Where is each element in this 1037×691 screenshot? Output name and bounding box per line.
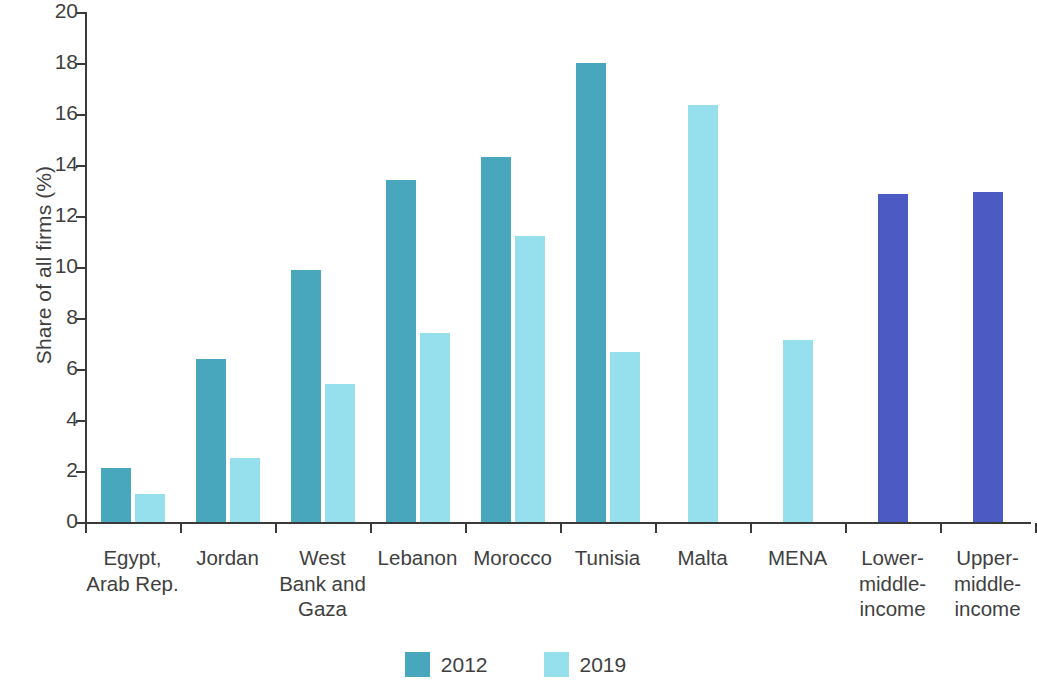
- bar-2012: [576, 63, 606, 522]
- y-tick-label: 14: [55, 152, 78, 176]
- x-axis-label: Morocco: [465, 545, 560, 571]
- x-tick-mark: [750, 523, 752, 533]
- bar-2019: [135, 494, 165, 522]
- x-tick-mark: [275, 523, 277, 533]
- x-axis-label: Lower- middle- income: [845, 545, 940, 622]
- x-axis-label: Malta: [655, 545, 750, 571]
- y-tick-label: 8: [66, 305, 78, 329]
- x-tick-mark: [655, 523, 657, 533]
- y-tick-label: 18: [55, 50, 78, 74]
- bar-2019: [325, 384, 355, 522]
- legend-label: 2019: [580, 653, 627, 677]
- bar-2012: [386, 180, 416, 522]
- y-tick-label: 6: [66, 356, 78, 380]
- x-tick-mark: [180, 523, 182, 533]
- bar-2019: [230, 458, 260, 522]
- bar-2019: [783, 340, 813, 522]
- x-axis-label: Upper- middle- income: [940, 545, 1035, 622]
- y-axis-line: [85, 12, 87, 523]
- bar-2012: [481, 157, 511, 522]
- bar-2019: [688, 105, 718, 522]
- legend-item: 2019: [544, 652, 627, 677]
- x-axis-line: [85, 522, 1031, 524]
- legend-swatch: [405, 652, 430, 677]
- legend-item: 2012: [405, 652, 488, 677]
- bar-2019: [610, 352, 640, 522]
- legend-swatch: [544, 652, 569, 677]
- y-tick-label: 4: [66, 407, 78, 431]
- x-axis-label: Egypt, Arab Rep.: [85, 545, 180, 596]
- x-tick-mark: [85, 523, 87, 533]
- chart-legend: 20122019: [0, 652, 1031, 677]
- x-axis-label: Lebanon: [370, 545, 465, 571]
- x-axis-label: Tunisia: [560, 545, 655, 571]
- y-tick-label: 12: [55, 203, 78, 227]
- x-tick-mark: [845, 523, 847, 533]
- x-tick-mark: [465, 523, 467, 533]
- y-tick-label: 20: [55, 0, 78, 23]
- plot-area: 20181614121086420: [85, 12, 1031, 522]
- bar-2019: [515, 236, 545, 522]
- x-axis-label: MENA: [750, 545, 845, 571]
- y-tick-label: 2: [66, 458, 78, 482]
- bar-2012: [196, 359, 226, 522]
- y-tick-label: 0: [66, 509, 78, 533]
- bar-2019: [420, 333, 450, 522]
- y-axis-title: Share of all firms (%): [32, 55, 56, 475]
- x-axis-label: West Bank and Gaza: [275, 545, 370, 622]
- bar-benchmark: [973, 192, 1003, 522]
- bar-2012: [101, 468, 131, 522]
- y-tick-label: 16: [55, 101, 78, 125]
- x-tick-mark: [370, 523, 372, 533]
- x-axis-label: Jordan: [180, 545, 275, 571]
- bar-benchmark: [878, 194, 908, 522]
- x-tick-mark: [560, 523, 562, 533]
- x-tick-mark: [940, 523, 942, 533]
- legend-label: 2012: [441, 653, 488, 677]
- y-tick-label: 10: [55, 254, 78, 278]
- bar-2012: [291, 270, 321, 522]
